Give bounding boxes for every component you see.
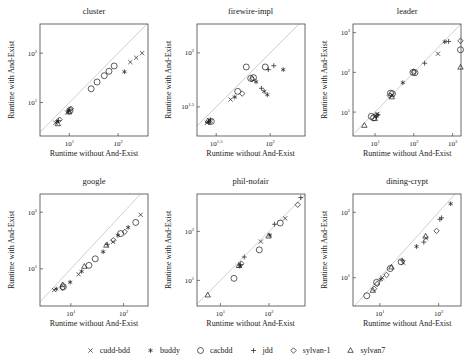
legend-item-sylvan7: sylvan7 [345, 345, 385, 356]
svg-text:101.5: 101.5 [181, 102, 194, 111]
svg-text:102: 102 [184, 227, 194, 236]
svg-text:101: 101 [184, 276, 194, 285]
svg-text:102: 102 [113, 139, 123, 148]
svg-text:101: 101 [375, 309, 385, 318]
scatter-plot-canvas: 101102101102 [313, 170, 470, 318]
x-axis-label: Runtime without And-Exist [193, 149, 309, 158]
diamond-marker-icon [288, 345, 299, 356]
svg-text:102: 102 [119, 309, 129, 318]
plus-marker-icon [248, 345, 259, 356]
subplot-phil-nofair: phil-nofair Runtime with And-Exist 10110… [157, 170, 314, 337]
svg-text:103: 103 [341, 28, 351, 37]
legend-item-cacbdd: cacbdd [195, 345, 233, 356]
figure-legend: cudd-bdd buddy cacbdd jdd sylvan-1 sylva… [0, 339, 470, 361]
scatter-plot-canvas: 101.5102101.5102 [157, 0, 314, 148]
svg-text:102: 102 [184, 48, 194, 57]
svg-text:102: 102 [265, 139, 275, 148]
svg-text:101: 101 [28, 264, 38, 273]
svg-text:102: 102 [264, 309, 274, 318]
benchmark-scatter-figure: cluster Runtime with And-Exist 101102101… [0, 0, 470, 363]
triangle-marker-icon [345, 345, 356, 356]
svg-text:101.5: 101.5 [209, 139, 222, 148]
legend-label: cacbdd [210, 346, 233, 355]
scatter-plot-canvas: 101102101102 [0, 0, 157, 148]
svg-text:101: 101 [215, 309, 225, 318]
svg-text:101: 101 [371, 139, 381, 148]
svg-text:101: 101 [341, 108, 351, 117]
svg-text:101: 101 [66, 309, 76, 318]
svg-text:101: 101 [341, 273, 351, 282]
x-axis-label: Runtime without And-Exist [349, 319, 465, 328]
legend-label: sylvan-1 [303, 346, 331, 355]
legend-label: buddy [160, 346, 180, 355]
svg-text:102: 102 [341, 208, 351, 217]
cross-marker-icon [85, 345, 96, 356]
scatter-plot-canvas: 101102103101102103 [313, 0, 470, 148]
legend-item-jdd: jdd [248, 345, 273, 356]
legend-item-buddy: buddy [145, 345, 180, 356]
plot-row-top: cluster Runtime with And-Exist 101102101… [0, 0, 470, 170]
svg-text:101: 101 [65, 139, 75, 148]
x-axis-label: Runtime without And-Exist [349, 149, 465, 158]
svg-text:102: 102 [28, 49, 38, 58]
subplot-firewire-impl: firewire-impl Runtime with And-Exist 101… [157, 0, 314, 170]
plot-row-bottom: google Runtime with And-Exist 1011021011… [0, 170, 470, 337]
subplot-cluster: cluster Runtime with And-Exist 101102101… [0, 0, 157, 170]
svg-text:102: 102 [28, 208, 38, 217]
circle-marker-icon [195, 345, 206, 356]
subplot-leader: leader Runtime with And-Exist 1011021031… [313, 0, 470, 170]
svg-text:102: 102 [434, 309, 444, 318]
legend-label: cudd-bdd [100, 346, 130, 355]
x-axis-label: Runtime without And-Exist [193, 319, 309, 328]
x-axis-label: Runtime without And-Exist [36, 149, 152, 158]
svg-text:102: 102 [341, 68, 351, 77]
legend-label: jdd [263, 346, 273, 355]
subplot-dining-crypt: dining-crypt Runtime with And-Exist 1011… [313, 170, 470, 337]
asterisk-marker-icon [145, 345, 156, 356]
legend-label: sylvan7 [360, 346, 385, 355]
legend-item-sylvan-1: sylvan-1 [288, 345, 331, 356]
subplot-google: google Runtime with And-Exist 1011021011… [0, 170, 157, 337]
svg-text:102: 102 [409, 139, 419, 148]
scatter-plot-canvas: 101102101102 [0, 170, 157, 318]
x-axis-label: Runtime without And-Exist [36, 319, 152, 328]
svg-text:103: 103 [448, 139, 458, 148]
legend-item-cudd-bdd: cudd-bdd [85, 345, 130, 356]
svg-text:101: 101 [28, 98, 38, 107]
scatter-plot-canvas: 101102101102 [157, 170, 314, 318]
